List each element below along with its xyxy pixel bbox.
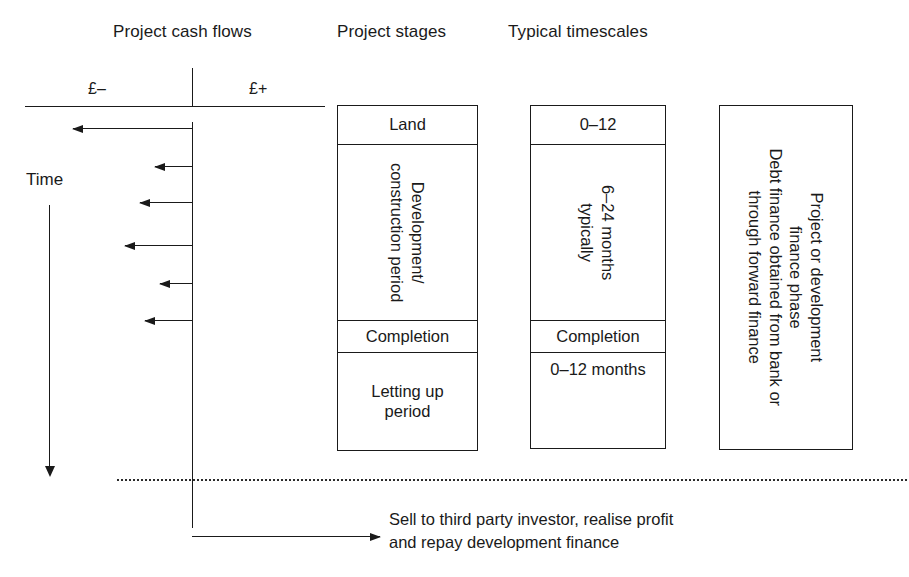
cash-flow-spine	[192, 122, 193, 528]
box-row-rotated: 6–24 monthstypically	[531, 145, 665, 321]
cash-outflow-arrow	[160, 283, 192, 284]
box-row-label: 0–12 months	[550, 360, 645, 379]
cash-flow-axis-vertical-upper	[192, 68, 193, 107]
exit-proceeds-arrow	[192, 536, 380, 537]
axis-label-negative: £–	[88, 80, 106, 98]
box-row-label: Letting upperiod	[371, 382, 443, 421]
box-row: Completion	[531, 321, 665, 353]
exit-note-line-2: and repay development finance	[389, 531, 673, 554]
cash-outflow-arrow	[145, 320, 192, 321]
box-row-label: Completion	[556, 327, 639, 346]
box-row-label: 6–24 monthstypically	[577, 185, 618, 280]
finance-phase-label-rotated: Project or developmentfinance phaseDebt …	[720, 106, 852, 449]
box-row-label: Development/construction period	[387, 163, 428, 302]
heading-project-cash-flows: Project cash flows	[113, 22, 252, 42]
exit-note: Sell to third party investor, realise pr…	[389, 508, 673, 555]
box-row: 0–12	[531, 106, 665, 145]
cash-outflow-arrow	[73, 128, 192, 129]
box-row-rotated: Development/construction period	[338, 145, 477, 321]
phase-separator-dotted-line	[117, 479, 907, 481]
cash-outflow-arrow	[155, 166, 192, 167]
cash-outflow-arrow	[125, 245, 192, 246]
diagram-canvas: Project cash flows Project stages Typica…	[0, 0, 909, 577]
cash-outflow-arrow	[140, 202, 192, 203]
box-row: Completion	[338, 321, 477, 353]
box-row-label: 0–12	[580, 115, 617, 134]
box-row-label: Completion	[366, 327, 449, 346]
box-row-label: Land	[389, 115, 426, 134]
heading-typical-timescales: Typical timescales	[508, 22, 648, 42]
box-row: Land	[338, 106, 477, 145]
heading-project-stages: Project stages	[337, 22, 446, 42]
cash-flow-axis-horizontal	[25, 106, 325, 107]
axis-label-time: Time	[26, 170, 63, 190]
box-row: 0–12 months	[531, 353, 665, 448]
time-axis-arrow	[49, 205, 50, 467]
finance-phase-label: Project or developmentfinance phaseDebt …	[745, 149, 828, 407]
finance-phase-box: Project or developmentfinance phaseDebt …	[719, 105, 853, 450]
typical-timescales-box: 0–126–24 monthstypicallyCompletion0–12 m…	[530, 105, 666, 449]
box-row: Letting upperiod	[338, 353, 477, 450]
axis-label-positive: £+	[249, 80, 267, 98]
exit-note-line-1: Sell to third party investor, realise pr…	[389, 508, 673, 531]
project-stages-box: LandDevelopment/construction periodCompl…	[337, 105, 478, 451]
